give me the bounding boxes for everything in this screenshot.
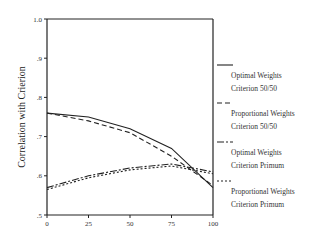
y-tick-label: .7 [37,133,43,141]
legend-label: Optimal Weights [231,148,282,157]
y-axis-ticks: 1.0.9.8.7.6.5 [33,16,47,220]
series-line-dashed [47,113,213,186]
x-tick-label: 75 [168,220,176,228]
x-axis-ticks: 0255075100 [45,215,219,228]
x-tick-label: 50 [127,220,135,228]
legend-label: Proportional Weights [231,109,295,118]
legend-label: Criterion 50/50 [231,122,277,131]
legend-label: Proportional Weights [231,187,295,196]
y-axis-title: Correlation with Crierion [16,66,27,168]
legend-label: Criterion Primum [231,161,284,170]
legend-label: Criterion Primum [231,200,284,209]
series-line-solid [47,113,213,188]
y-tick-label: .6 [37,172,43,180]
line-chart: 1.0.9.8.7.6.5 0255075100 Correlation wit… [0,0,313,235]
x-tick-label: 25 [85,220,93,228]
series-line-dotted [47,166,213,190]
legend-label: Criterion 50/50 [231,84,277,93]
y-tick-label: .9 [37,55,43,63]
series-line-dashdot [47,164,213,188]
series-lines [47,113,213,189]
plot-area [47,19,213,215]
y-tick-label: .5 [37,212,43,220]
legend: Optimal WeightsCriterion 50/50Proportion… [217,65,295,209]
x-tick-label: 0 [45,220,49,228]
y-tick-label: 1.0 [33,16,42,24]
legend-label: Optimal Weights [231,71,282,80]
y-tick-label: .8 [37,94,43,102]
x-tick-label: 100 [208,220,219,228]
